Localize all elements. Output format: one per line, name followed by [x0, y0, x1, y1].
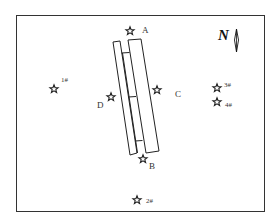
point-1: 1# [50, 76, 69, 93]
point-C: C [153, 86, 181, 99]
point-label-4: 4# [225, 101, 233, 109]
point-label-2: 2# [146, 197, 154, 205]
star-icon [153, 86, 161, 94]
star-icon [213, 84, 221, 92]
point-2: 2# [133, 196, 154, 205]
cross-line-low [135, 141, 143, 142]
structure-group [113, 39, 159, 155]
middle-divider [123, 53, 138, 153]
point-B: B [139, 155, 155, 171]
star-icon [213, 98, 221, 106]
site-diagram: N A B C D 1# 2# 3# [0, 0, 278, 223]
point-D: D [97, 93, 115, 110]
north-label: N [217, 27, 230, 43]
cross-line-top [122, 53, 130, 54]
cross-line-mid [129, 97, 137, 98]
point-3: 3# [213, 81, 232, 92]
map-frame [17, 16, 265, 212]
star-icon [107, 93, 115, 101]
point-label-B: B [149, 161, 155, 171]
point-label-1: 1# [61, 76, 69, 84]
point-label-3: 3# [224, 81, 232, 89]
point-A: A [126, 25, 149, 35]
left-strip [113, 41, 137, 155]
star-icon [50, 85, 58, 93]
point-label-C: C [175, 89, 181, 99]
star-icon [126, 27, 134, 35]
point-label-A: A [142, 25, 149, 35]
north-arrow: N [217, 27, 239, 52]
point-label-D: D [97, 100, 104, 110]
star-icon [139, 155, 147, 163]
star-icon [133, 196, 141, 204]
point-4: 4# [213, 98, 233, 109]
right-strip [128, 39, 159, 153]
